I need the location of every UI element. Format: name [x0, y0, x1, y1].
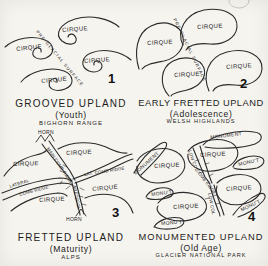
caption-location: WELSH HIGHLANDS [134, 119, 268, 125]
caption-title: EARLY FRETTED UPLAND [134, 99, 268, 108]
caption-location: ALPS [4, 254, 138, 260]
horn-label: HORN [66, 217, 82, 222]
caption-stage: (Old Age) [134, 244, 268, 253]
caption-stage: (Youth) [4, 111, 138, 120]
panel-number-2: 2 [240, 77, 247, 90]
caption-title: FRETTED UPLAND [4, 233, 138, 243]
panel4-caption: MONUMENTED UPLAND (Old Age) GLACIER NATI… [134, 233, 268, 259]
scan-artifact-circle [229, 0, 249, 8]
caption-title: GROOVED UPLAND [4, 99, 138, 109]
panel-number-1: 1 [108, 72, 115, 85]
caption-location: BIGHORN RANGE [4, 120, 138, 126]
caption-location: GLACIER NATIONAL PARK [134, 253, 268, 259]
panel4-monument-outlines [134, 131, 265, 229]
glacial-cycle-diagram: CIRQUE CIRQUE CIRQUE CIRQUE PRE-GLACIAL … [0, 0, 268, 266]
panel-number-3: 3 [112, 206, 119, 219]
panel3-caption: FRETTED UPLAND (Maturity) ALPS [4, 233, 138, 260]
panel2-caption: EARLY FRETTED UPLAND (Adolescence) WELSH… [134, 99, 268, 125]
cirque-rim [85, 194, 133, 213]
col-label: COL [75, 200, 81, 210]
panel1-caption: GROOVED UPLAND (Youth) BIGHORN RANGE [4, 99, 138, 126]
caption-stage: (Adolescence) [134, 110, 268, 119]
panel-number-4: 4 [248, 210, 255, 223]
horn-label: HORN [38, 130, 54, 135]
cirque-label: CIRQUE [13, 160, 39, 167]
horn-peak-marks [36, 134, 54, 142]
caption-stage: (Maturity) [4, 245, 138, 254]
caption-title: MONUMENTED UPLAND [134, 233, 268, 242]
cirque-outline [206, 51, 262, 91]
